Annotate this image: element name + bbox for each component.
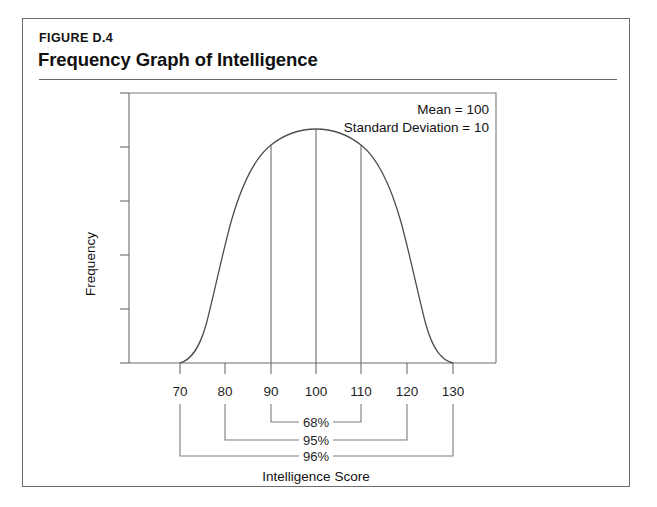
vertical-markers	[271, 129, 361, 363]
x-tick-label: 70	[172, 384, 187, 399]
std-dev-annotation: Standard Deviation = 10	[344, 120, 489, 135]
x-tick-label: 90	[263, 384, 278, 399]
x-tick-label: 130	[442, 384, 465, 399]
y-axis-title: Frequency	[83, 232, 98, 296]
bracket-label-96: 96%	[303, 449, 329, 464]
bracket-label-68: 68%	[303, 415, 329, 430]
x-tick-label: 80	[217, 384, 232, 399]
x-tick-labels: 70 80 90 100 110 120 130	[172, 384, 464, 399]
frequency-graph: 70 80 90 100 110 120 130 Mean = 100 Stan…	[23, 19, 631, 488]
x-tick-label: 110	[350, 384, 372, 399]
x-axis-title: Intelligence Score	[262, 469, 369, 484]
x-axis-ticks	[180, 363, 453, 374]
bracket-68: 68%	[271, 404, 361, 430]
x-tick-label: 120	[396, 384, 419, 399]
mean-annotation: Mean = 100	[417, 102, 489, 117]
x-tick-label: 100	[305, 384, 328, 399]
y-axis-ticks	[120, 93, 129, 363]
figure-card: FIGURE D.4 Frequency Graph of Intelligen…	[22, 18, 630, 487]
bracket-label-95: 95%	[303, 433, 329, 448]
